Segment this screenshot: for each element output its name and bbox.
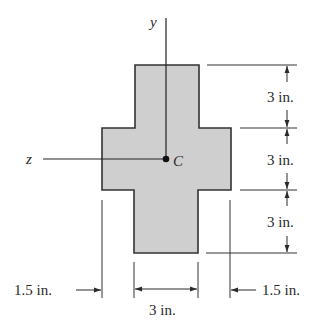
- dim-label-right-1: 3 in.: [267, 89, 294, 105]
- dim-label-right-2: 3 in.: [267, 152, 294, 168]
- z-axis-label: z: [25, 151, 32, 167]
- dim-label-left-flange: 1.5 in.: [14, 282, 52, 298]
- dim-label-right-flange: 1.5 in.: [262, 282, 300, 298]
- dim-label-web: 3 in.: [149, 302, 176, 318]
- dim-label-right-3: 3 in.: [267, 214, 294, 230]
- centroid-label: C: [173, 153, 184, 169]
- centroid-point: [163, 156, 170, 163]
- y-axis-label: y: [148, 14, 157, 30]
- cross-section-diagram: y z C 3 in. 3 in. 3 in. 1.5 in. 3 in. 1.…: [0, 0, 330, 326]
